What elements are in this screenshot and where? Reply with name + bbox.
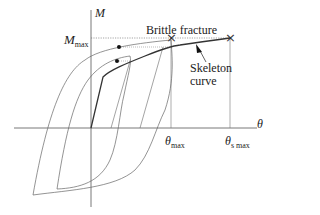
m-max-subscript: max [75,40,89,49]
peak-dot-upper [117,45,121,49]
skeleton-end-marker: × [225,31,236,44]
brittle-fracture-label: Brittle fracture [146,24,217,36]
unloading-line-inner [111,61,130,128]
theta-s-max-label: θs max [225,135,250,150]
theta-s-max-subscript: s max [231,141,250,150]
theta-axis-label: θ [257,118,263,130]
theta-max-label: θmax [165,135,185,150]
m-max-label: Mmax [64,33,89,49]
skeleton-curve-label-line2: curve [190,75,217,87]
m-axis-label: M [95,7,105,19]
skeleton-curve-label-line1: Skeleton [190,62,232,74]
peak-dot-lower [115,59,119,63]
unloading-line-outer [140,47,163,128]
m-max-symbol: M [64,32,75,47]
skeleton-arrow-head [196,44,202,53]
theta-max-subscript: max [171,141,185,150]
hysteresis-loop-inner [57,56,131,189]
